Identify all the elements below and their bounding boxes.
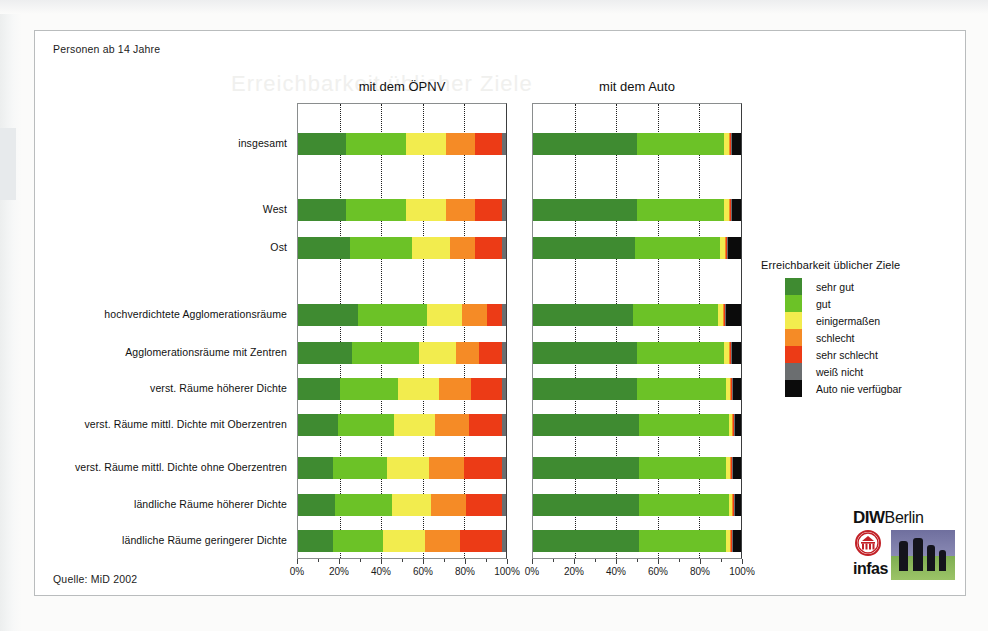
bar-segment [475, 237, 502, 259]
bar-segment [502, 304, 506, 326]
legend-item: sehr schlecht [785, 346, 957, 363]
axis-tick [318, 559, 319, 562]
bar-segment [350, 237, 412, 259]
bar-segment [298, 304, 358, 326]
axis-tick [381, 559, 382, 564]
stacked-bar [298, 342, 506, 364]
axis-tick [553, 559, 554, 562]
bar-segment [637, 133, 724, 155]
bar-segment [726, 304, 741, 326]
legend-items: sehr gutguteinigermaßenschlechtsehr schl… [785, 278, 957, 397]
bar-segment [450, 237, 475, 259]
legend-swatch [785, 295, 802, 312]
logo-infas-text: infas [853, 560, 888, 578]
bar-segment [502, 133, 506, 155]
bar-segment [425, 530, 460, 552]
bar-segment [735, 494, 741, 516]
category-label: hochverdichtete Agglomerationsräume [104, 308, 287, 320]
legend-title: Erreichbarkeit üblicher Ziele [761, 259, 957, 271]
axis-tick [658, 559, 659, 564]
bar-segment [637, 342, 724, 364]
bar-segment [635, 237, 720, 259]
legend: Erreichbarkeit üblicher Ziele sehr gutgu… [761, 259, 957, 397]
x-tick-label: 80% [455, 566, 475, 577]
gridline [575, 104, 576, 558]
axis-tick [360, 559, 361, 562]
legend-item: weiß nicht [785, 363, 957, 380]
x-tick-label: 100% [729, 566, 755, 577]
bar-segment [446, 199, 475, 221]
bar-segment [469, 414, 502, 436]
bar-segment [346, 133, 406, 155]
stacked-bar [298, 199, 506, 221]
axis-tick [532, 559, 533, 564]
legend-item-label: sehr gut [816, 281, 854, 293]
legend-item-label: einigermaßen [816, 315, 880, 327]
bar-segment [502, 494, 506, 516]
bar-segment [471, 378, 502, 400]
bar-segment [419, 342, 456, 364]
bar-segment [735, 414, 741, 436]
stacked-bar [533, 237, 741, 259]
bar-segment [429, 457, 464, 479]
panel-title-oepnv: mit dem ÖPNV [297, 79, 507, 94]
gridline [381, 104, 382, 558]
bar-segment [732, 133, 741, 155]
figure-frame: Erreichbarkeit üblicher Ziele Personen a… [34, 30, 966, 596]
axis-tick [507, 559, 508, 564]
figure-caption-top: Personen ab 14 Jahre [53, 43, 160, 55]
bar-segment [435, 414, 468, 436]
axis-tick [679, 559, 680, 562]
bar-segment [427, 304, 462, 326]
axis-tick [297, 559, 298, 564]
bar-segment [464, 457, 501, 479]
bar-segment [456, 342, 479, 364]
stacked-bar [298, 414, 506, 436]
plot-area-oepnv [297, 103, 507, 559]
bar-segment [479, 342, 502, 364]
gridline [699, 104, 700, 558]
axis-tick [402, 559, 403, 562]
bar-segment [733, 457, 741, 479]
stacked-bar [298, 378, 506, 400]
bar-segment [298, 342, 352, 364]
bar-segment [637, 378, 726, 400]
bar-segment [502, 414, 506, 436]
bar-segment [533, 378, 637, 400]
category-label: Agglomerationsräume mit Zentren [125, 346, 287, 358]
x-tick-label: 0% [525, 566, 539, 577]
x-tick-label: 20% [329, 566, 349, 577]
bar-segment [333, 530, 383, 552]
category-label: verst. Räume höherer Dichte [150, 382, 287, 394]
legend-swatch [785, 312, 802, 329]
legend-swatch [785, 380, 802, 397]
x-tick-label: 40% [371, 566, 391, 577]
x-tick-label: 20% [564, 566, 584, 577]
bar-segment [298, 133, 346, 155]
bar-segment [446, 133, 475, 155]
category-label: insgesamt [238, 137, 287, 149]
x-axis-oepnv: 0%20%40%60%80%100% [297, 559, 507, 581]
stacked-bar [298, 530, 506, 552]
legend-swatch [785, 278, 802, 295]
plot-area-auto [532, 103, 742, 559]
legend-item-label: weiß nicht [816, 366, 863, 378]
gridline [464, 104, 465, 558]
bar-segment [406, 133, 446, 155]
bar-segment [502, 342, 506, 364]
bar-segment [728, 237, 740, 259]
category-axis-labels: insgesamtWestOsthochverdichtete Agglomer… [35, 103, 287, 559]
bar-segment [398, 378, 440, 400]
panel-title-auto: mit dem Auto [532, 79, 742, 94]
category-label: ländliche Räume höherer Dichte [134, 498, 287, 510]
stacked-bar [298, 237, 506, 259]
axis-tick [637, 559, 638, 562]
bar-segment [466, 494, 501, 516]
logo-berlin-text: Berlin [885, 509, 924, 526]
bar-segment [462, 304, 487, 326]
stacked-bar [533, 378, 741, 400]
bar-segment [358, 304, 427, 326]
bar-segment [387, 457, 429, 479]
category-label: Ost [270, 241, 287, 253]
bar-segment [533, 199, 637, 221]
